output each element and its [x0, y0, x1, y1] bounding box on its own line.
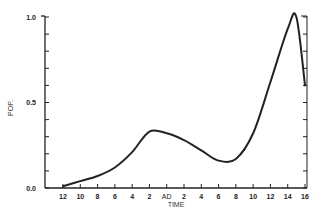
x-tick-label: 16 [301, 193, 309, 200]
x-tick-label: 2 [182, 193, 186, 200]
x-tick-label: 10 [76, 193, 84, 200]
x-tick-label: 14 [284, 193, 292, 200]
y-tick-label: 0.0 [26, 185, 36, 192]
axes [41, 16, 307, 188]
x-tick-label: 10 [249, 193, 257, 200]
y-tick-labels: 0.00.51.0 [26, 14, 36, 192]
x-tick-label: 4 [199, 193, 203, 200]
x-tick-label: 4 [130, 193, 134, 200]
x-tick-label: 12 [267, 193, 275, 200]
y-tick-label: 0.5 [26, 99, 36, 106]
x-tick-label: 8 [96, 193, 100, 200]
x-tick-label: 12 [59, 193, 67, 200]
x-tick-label: 8 [234, 193, 238, 200]
x-tick-label: 2 [147, 193, 151, 200]
y-ticks [45, 17, 307, 188]
x-tick-label: AD [162, 193, 172, 200]
y-axis-title: POP. [7, 100, 14, 116]
x-axis-title: TIME [168, 201, 185, 208]
x-tick-labels: 12108642AD246810121416 [59, 193, 309, 200]
chart-svg: 0.00.51.0 12108642AD246810121416 POP. TI… [0, 0, 319, 224]
population-curve [63, 13, 305, 186]
x-tick-label: 6 [217, 193, 221, 200]
x-tick-label: 6 [113, 193, 117, 200]
y-tick-label: 1.0 [26, 14, 36, 21]
